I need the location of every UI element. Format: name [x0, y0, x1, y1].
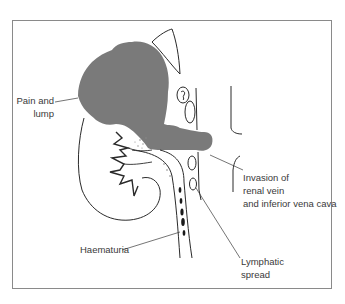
label-lymphatic: Lymphatic spread [241, 255, 284, 281]
label-haematuria: Haematuria [80, 243, 129, 256]
tumour-mass [78, 42, 213, 151]
leader-pain [55, 98, 78, 102]
leader-haematuria [122, 232, 180, 250]
ureter-left [132, 150, 180, 258]
aorta-wall [196, 88, 197, 130]
label-invasion: Invasion of renal vein and inferior vena… [243, 171, 336, 210]
vena-cava-upper [231, 86, 242, 134]
leader-lymphatic [196, 188, 240, 258]
vena-cava-lower [233, 156, 240, 192]
label-pain-and-lump: Pain and lump [14, 94, 54, 120]
kidney-diagram [0, 0, 345, 304]
blood-clots [179, 187, 186, 236]
